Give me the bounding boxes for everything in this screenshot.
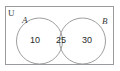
- region-b-only-count: 30: [82, 35, 92, 45]
- set-a-label: A: [21, 15, 28, 25]
- set-b-label: B: [102, 16, 108, 26]
- region-intersection-count: 25: [56, 35, 66, 45]
- region-a-only-count: 10: [30, 35, 40, 45]
- venn-diagram: U A B 10 25 30: [0, 0, 120, 71]
- universe-label: U: [8, 8, 15, 18]
